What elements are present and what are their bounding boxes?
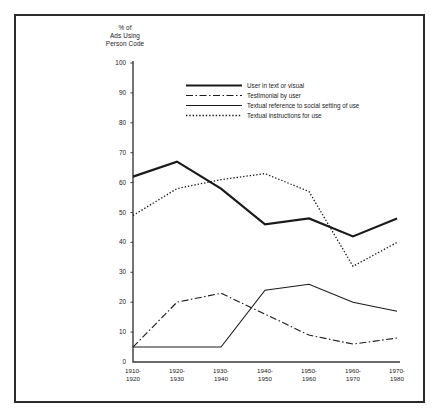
data-series-line <box>133 174 397 267</box>
x-tick-label-line: 1930 <box>155 375 199 383</box>
data-series-line <box>133 293 397 347</box>
chart-plot-area <box>0 0 440 418</box>
x-tick-label: 1950-1960 <box>287 367 331 384</box>
x-tick-label-line: 1950 <box>243 375 287 383</box>
x-tick-label: 1920-1930 <box>155 367 199 384</box>
x-tick-label-line: 1980 <box>375 375 419 383</box>
x-tick-label: 1910-1920 <box>111 367 155 384</box>
y-tick-label: 20 <box>104 298 126 305</box>
x-tick-label-line: 1960- <box>331 367 375 375</box>
x-tick-label-line: 1970- <box>375 367 419 375</box>
x-tick-label: 1940-1950 <box>243 367 287 384</box>
x-tick-label: 1930-1940 <box>199 367 243 384</box>
y-tick-label: 0 <box>104 358 126 365</box>
y-tick-label: 60 <box>104 179 126 186</box>
x-tick-label: 1960-1970 <box>331 367 375 384</box>
y-tick-label: 70 <box>104 149 126 156</box>
y-tick-label: 100 <box>104 59 126 66</box>
x-tick-label-line: 1930- <box>199 367 243 375</box>
y-tick-label: 50 <box>104 209 126 216</box>
x-tick-label: 1970-1980 <box>375 367 419 384</box>
x-tick-label-line: 1940 <box>199 375 243 383</box>
y-tick-label: 10 <box>104 328 126 335</box>
x-tick-label-line: 1950- <box>287 367 331 375</box>
x-tick-label-line: 1960 <box>287 375 331 383</box>
data-series-line <box>133 284 397 347</box>
y-tick-label: 80 <box>104 119 126 126</box>
x-tick-label-line: 1970 <box>331 375 375 383</box>
y-tick-label: 30 <box>104 268 126 275</box>
y-tick-label: 40 <box>104 238 126 245</box>
x-tick-label-line: 1920 <box>111 375 155 383</box>
x-tick-label-line: 1910- <box>111 367 155 375</box>
x-tick-label-line: 1940- <box>243 367 287 375</box>
y-tick-label: 90 <box>104 89 126 96</box>
data-series-line <box>133 162 397 237</box>
x-tick-label-line: 1920- <box>155 367 199 375</box>
